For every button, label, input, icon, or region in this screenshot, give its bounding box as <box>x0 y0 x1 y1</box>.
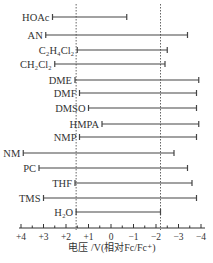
solvent-label: HOAc <box>22 12 50 23</box>
x-tick-label: +3 <box>38 232 48 242</box>
solvent-label: C₂H₄Cl₂ <box>39 45 75 56</box>
solvent-bar-nmp: NMP <box>54 132 197 143</box>
solvent-bar-tms: TMS <box>19 193 197 204</box>
solvent-label: AN <box>28 30 44 41</box>
solvent-bar-an: AN <box>28 30 188 41</box>
solvent-label: PC <box>23 163 36 174</box>
electrochemical-window-chart: HOAcANC₂H₄Cl₂CH₂Cl₂DMEDMFDMSOHMPANMPNMPC… <box>0 0 213 263</box>
solvent-label: DME <box>49 75 72 86</box>
x-tick-label: −1 <box>128 232 138 242</box>
solvent-label: TMS <box>19 193 41 204</box>
solvent-bar-hmpa: HMPA <box>70 119 199 130</box>
x-tick-label: −2 <box>151 232 161 242</box>
solvent-bar-pc: PC <box>23 163 187 174</box>
solvent-label: DMSO <box>55 103 86 114</box>
x-tick-label: +1 <box>83 232 93 242</box>
solvent-label: CH₂Cl₂ <box>20 59 52 70</box>
solvent-bar-h2o: H₂O <box>54 207 160 218</box>
x-axis: +4+3+2+10−1−2−3−4 <box>16 224 206 242</box>
solvent-bar-dme: DME <box>49 75 199 86</box>
x-tick-label: 0 <box>109 232 114 242</box>
solvent-bar-dmf: DMF <box>54 88 197 99</box>
x-tick-label: −3 <box>173 232 183 242</box>
solvent-label: NMP <box>54 132 77 143</box>
solvent-bar-nm: NM <box>3 148 174 159</box>
solvent-label: THF <box>52 178 72 189</box>
x-axis-label: 电压 /V(相对Fc/Fc⁺) <box>68 241 155 254</box>
x-tick-label: +4 <box>16 232 26 242</box>
x-tick-label: −4 <box>196 232 206 242</box>
solvent-bars: HOAcANC₂H₄Cl₂CH₂Cl₂DMEDMFDMSOHMPANMPNMPC… <box>3 12 198 218</box>
solvent-label: HMPA <box>70 119 100 130</box>
solvent-bar-dmso: DMSO <box>55 103 196 114</box>
solvent-bar-thf: THF <box>52 178 192 189</box>
solvent-bar-hoac: HOAc <box>22 12 127 23</box>
solvent-bar-c2h4cl2: C₂H₄Cl₂ <box>39 45 168 56</box>
solvent-bar-ch2cl2: CH₂Cl₂ <box>20 59 165 70</box>
solvent-label: NM <box>3 148 21 159</box>
solvent-label: DMF <box>54 88 77 99</box>
x-tick-label: +2 <box>61 232 71 242</box>
reference-lines <box>76 4 160 230</box>
solvent-label: H₂O <box>54 207 73 218</box>
